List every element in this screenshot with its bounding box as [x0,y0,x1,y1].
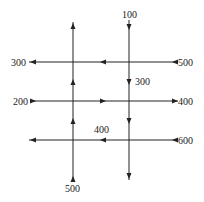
label-right-top-in: 500 [178,57,193,68]
arrow-down-icon [127,79,132,85]
arrow-down-icon [127,118,132,124]
label-right-bottom-in: 600 [178,135,193,146]
label-top-in: 100 [122,9,137,20]
traffic-flow-diagram: 100 300 500 300 200 400 400 600 500 [0,0,204,202]
label-right-middle-out: 400 [178,96,193,107]
arrow-left-icon [100,60,106,65]
arrow-down-icon [127,173,132,179]
arrow-down-icon [127,24,132,30]
label-inner-right-vertical: 300 [135,76,150,87]
arrow-right-icon [100,99,106,104]
arrow-left-icon [100,138,106,143]
label-inner-bottom-horizontal: 400 [94,124,109,135]
label-bottom-in: 500 [65,183,80,194]
arrow-up-icon [71,23,76,29]
arrow-up-icon [71,176,76,182]
arrow-left-icon [30,138,36,143]
arrow-right-icon [30,99,36,104]
label-left-top-out: 300 [11,57,26,68]
label-left-middle-in: 200 [13,96,28,107]
arrow-up-icon [71,118,76,124]
arrow-left-icon [30,60,36,65]
arrow-up-icon [71,79,76,85]
